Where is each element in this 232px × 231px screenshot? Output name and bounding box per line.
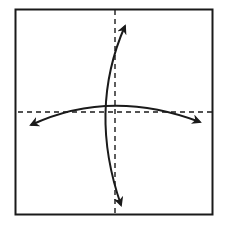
vertical-fold-arrow	[105, 26, 125, 205]
origami-diagram	[0, 0, 232, 231]
